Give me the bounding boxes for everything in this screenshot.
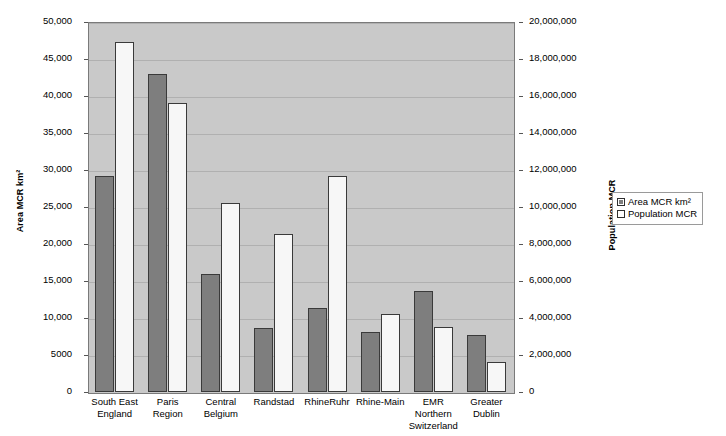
bar-population-mcr[interactable]	[221, 203, 240, 392]
y-axis-left-tick-label: 0	[67, 386, 72, 396]
chart-screenshot: Area MCR km² Population MCR 0500010,0001…	[0, 0, 726, 436]
y-axis-right-tick-mark	[519, 22, 523, 23]
legend-swatch-population-icon	[617, 210, 625, 218]
y-axis-right-tick-label: 12,000,000	[529, 164, 577, 174]
y-axis-right-tick-label: 6,000,000	[529, 275, 571, 285]
y-axis-right-tick-label: 8,000,000	[529, 238, 571, 248]
x-axis-category-label: Randstad	[247, 396, 300, 408]
y-axis-right-tick-label: 18,000,000	[529, 53, 577, 63]
x-axis-category-label: South East England	[88, 396, 141, 420]
legend-item[interactable]: Area MCR km²	[617, 196, 697, 208]
bar-group	[460, 22, 513, 392]
bar-group	[141, 22, 194, 392]
y-axis-left-tick-label: 45,000	[43, 53, 72, 63]
x-axis-category-label: Paris Region	[141, 396, 194, 420]
y-axis-right-tick-label: 2,000,000	[529, 349, 571, 359]
x-axis-category-label: Rhine-Main	[354, 396, 407, 408]
bar-group	[301, 22, 354, 392]
x-axis-category-label: RhineRuhr	[301, 396, 354, 408]
y-axis-left-tick-label: 30,000	[43, 164, 72, 174]
y-axis-right-tick-label: 14,000,000	[529, 127, 577, 137]
y-axis-right-tick-mark	[519, 133, 523, 134]
bar-population-mcr[interactable]	[434, 327, 453, 392]
legend-item[interactable]: Population MCR	[617, 208, 697, 220]
bar-area-mcr[interactable]	[148, 74, 167, 392]
y-axis-right-tick-mark	[519, 96, 523, 97]
bar-population-mcr[interactable]	[168, 103, 187, 392]
legend-label: Population MCR	[628, 208, 697, 220]
x-axis-category-label: EMR Northern Switzerland	[407, 396, 460, 432]
bar-group	[194, 22, 247, 392]
bar-group	[407, 22, 460, 392]
y-axis-left-ticks: 0500010,00015,00020,00025,00030,00035,00…	[0, 0, 82, 436]
bar-population-mcr[interactable]	[381, 314, 400, 392]
y-axis-right-tick-mark	[519, 318, 523, 319]
y-axis-left-tick-label: 50,000	[43, 16, 72, 26]
bar-area-mcr[interactable]	[361, 332, 380, 392]
bar-population-mcr[interactable]	[115, 42, 134, 392]
y-axis-right-tick-mark	[519, 281, 523, 282]
bar-area-mcr[interactable]	[308, 308, 327, 392]
bar-population-mcr[interactable]	[274, 234, 293, 392]
legend-label: Area MCR km²	[628, 196, 691, 208]
y-axis-right-ticks: 02,000,0004,000,0006,000,0008,000,00010,…	[519, 0, 609, 436]
bars-layer	[88, 22, 513, 392]
y-axis-right-tick-mark	[519, 170, 523, 171]
bar-population-mcr[interactable]	[487, 362, 506, 392]
y-axis-left-tick-label: 5000	[51, 349, 72, 359]
y-axis-right-tick-label: 0	[529, 386, 534, 396]
chart-legend: Area MCR km²Population MCR	[612, 192, 703, 225]
y-axis-right-tick-mark	[519, 355, 523, 356]
y-axis-left-tick-label: 15,000	[43, 275, 72, 285]
bar-area-mcr[interactable]	[467, 335, 486, 392]
y-axis-right-tick-label: 4,000,000	[529, 312, 571, 322]
bar-group	[88, 22, 141, 392]
bar-area-mcr[interactable]	[95, 176, 114, 392]
bar-group	[354, 22, 407, 392]
y-axis-left-tick-label: 35,000	[43, 127, 72, 137]
y-axis-left-tick-label: 20,000	[43, 238, 72, 248]
bar-population-mcr[interactable]	[328, 176, 347, 392]
bar-group	[247, 22, 300, 392]
x-axis-category-label: Greater Dublin	[460, 396, 513, 420]
bar-area-mcr[interactable]	[414, 291, 433, 392]
y-axis-right-tick-label: 16,000,000	[529, 90, 577, 100]
y-axis-right-tick-mark	[519, 244, 523, 245]
y-axis-left-tick-label: 10,000	[43, 312, 72, 322]
legend-swatch-area-icon	[617, 198, 625, 206]
y-axis-right-tick-mark	[519, 59, 523, 60]
bar-area-mcr[interactable]	[254, 328, 273, 392]
y-axis-right-tick-label: 10,000,000	[529, 201, 577, 211]
x-axis-category-labels: South East EnglandParis RegionCentral Be…	[88, 396, 513, 436]
y-axis-left-tick-label: 25,000	[43, 201, 72, 211]
x-axis-category-label: Central Belgium	[194, 396, 247, 420]
y-axis-left-tick-label: 40,000	[43, 90, 72, 100]
bar-area-mcr[interactable]	[201, 274, 220, 392]
y-axis-right-tick-mark	[519, 207, 523, 208]
y-axis-right-tick-label: 20,000,000	[529, 16, 577, 26]
y-axis-right-tick-mark	[519, 392, 523, 393]
